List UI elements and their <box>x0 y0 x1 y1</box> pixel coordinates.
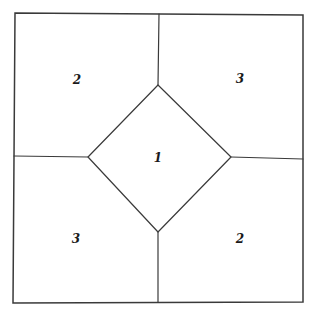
region-label-top-left: 2 <box>72 73 81 87</box>
right-divider <box>231 157 303 159</box>
region-label-top-right: 3 <box>236 72 244 86</box>
region-diagram: 2 3 1 3 2 <box>0 0 316 318</box>
region-label-bottom-left: 3 <box>72 232 80 246</box>
top-divider <box>158 14 159 85</box>
left-divider <box>14 156 88 157</box>
region-label-bottom-right: 2 <box>235 232 244 246</box>
region-label-center: 1 <box>154 151 162 165</box>
